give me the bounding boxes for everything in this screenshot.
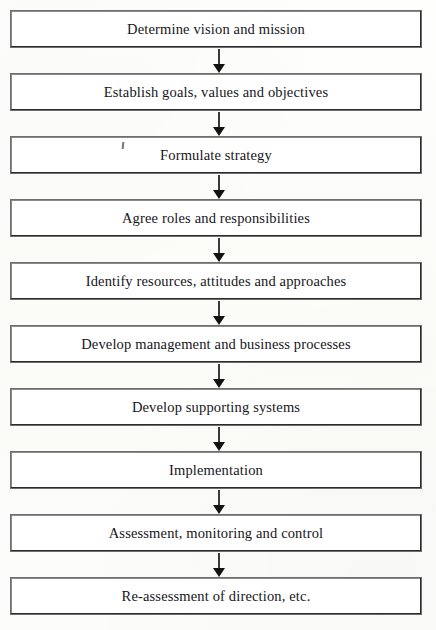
flow-step-3-label: Formulate strategy: [160, 148, 272, 163]
flow-step-8-label: Implementation: [169, 463, 263, 478]
flow-step-7-label: Develop supporting systems: [132, 400, 300, 415]
arrow-head-icon: [213, 64, 225, 73]
arrow-head-icon: [213, 442, 225, 451]
flow-step-5: Identify resources, attitudes and approa…: [10, 262, 422, 300]
flow-step-8: Implementation: [10, 451, 422, 489]
arrow-head-icon: [213, 379, 225, 388]
flow-step-9-label: Assessment, monitoring and control: [109, 526, 324, 541]
arrow-head-icon: [213, 253, 225, 262]
flow-arrow-1: [212, 49, 226, 73]
flow-step-6-label: Develop management and business processe…: [81, 337, 351, 352]
flow-step-2: Establish goals, values and objectives: [10, 73, 422, 111]
flow-arrow-5: [212, 301, 226, 325]
scan-speck-artifact: [122, 142, 125, 149]
flow-step-10: Re-assessment of direction, etc.: [10, 577, 422, 615]
flow-arrow-9: [212, 553, 226, 577]
flow-step-5-label: Identify resources, attitudes and approa…: [86, 274, 347, 289]
flow-arrow-6: [212, 364, 226, 388]
flow-arrow-3: [212, 175, 226, 199]
flow-step-4-label: Agree roles and responsibilities: [122, 211, 310, 226]
arrow-head-icon: [213, 568, 225, 577]
flow-arrow-7: [212, 427, 226, 451]
arrow-head-icon: [213, 505, 225, 514]
flow-step-4: Agree roles and responsibilities: [10, 199, 422, 237]
flow-arrow-4: [212, 238, 226, 262]
flow-step-6: Develop management and business processe…: [10, 325, 422, 363]
flow-step-9: Assessment, monitoring and control: [10, 514, 422, 552]
flow-step-3: Formulate strategy: [10, 136, 422, 174]
flowchart: Determine vision and mission Establish g…: [0, 0, 436, 630]
arrow-head-icon: [213, 190, 225, 199]
arrow-head-icon: [213, 127, 225, 136]
flow-arrow-8: [212, 490, 226, 514]
flow-step-7: Develop supporting systems: [10, 388, 422, 426]
flow-step-1: Determine vision and mission: [10, 10, 422, 48]
flow-step-10-label: Re-assessment of direction, etc.: [122, 589, 311, 604]
flow-step-2-label: Establish goals, values and objectives: [104, 85, 328, 100]
flow-arrow-2: [212, 112, 226, 136]
arrow-head-icon: [213, 316, 225, 325]
flow-step-1-label: Determine vision and mission: [127, 22, 305, 37]
